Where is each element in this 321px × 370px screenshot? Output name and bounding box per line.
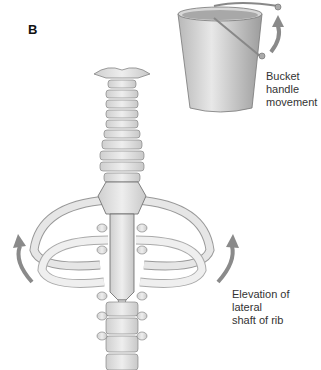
bucket-handle-label: Bucket handle movement: [266, 70, 321, 109]
rib-elevation-label: Elevation of lateral shaft of rib: [232, 288, 321, 327]
right-rib-arrow-icon: [218, 234, 239, 282]
rib-label-line-1: Elevation of lateral: [232, 288, 321, 314]
bucket-label-line-1: Bucket: [266, 70, 321, 83]
rib-label-line-2: shaft of rib: [232, 314, 321, 327]
cervical-spine: [94, 68, 150, 182]
left-rib-arrow-icon: [13, 234, 32, 282]
bucket-label-line-2: handle: [266, 83, 321, 96]
bucket-arrow-icon: [271, 15, 284, 52]
bucket-label-line-3: movement: [266, 96, 321, 109]
